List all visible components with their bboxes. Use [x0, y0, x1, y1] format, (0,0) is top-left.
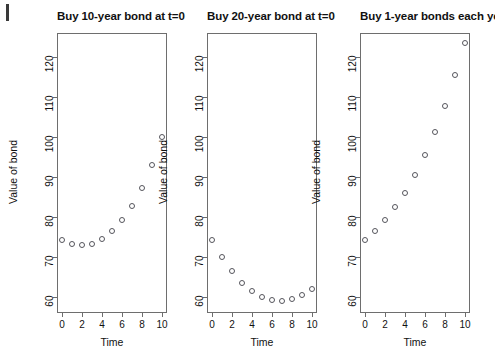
- data-point: [402, 190, 408, 196]
- panel-buy-1-year-bonds-each-year: Buy 1-year bonds each year Value of bond…: [0, 0, 495, 362]
- data-point: [372, 228, 378, 234]
- x-tick-label: 10: [459, 319, 470, 330]
- x-tick-label: 8: [442, 319, 448, 330]
- data-point: [422, 152, 428, 158]
- y-tick-label: 70: [347, 256, 358, 282]
- x-tick-mark: [425, 313, 426, 317]
- x-tick-mark: [445, 313, 446, 317]
- x-tick-label: 4: [402, 319, 408, 330]
- y-tick-label: 90: [347, 176, 358, 202]
- x-tick-mark: [385, 313, 386, 317]
- data-point: [412, 172, 418, 178]
- y-tick-label: 60: [347, 296, 358, 322]
- y-tick-label: 120: [347, 56, 358, 82]
- panel-title: Buy 1-year bonds each year: [360, 10, 470, 22]
- x-tick-label: 0: [362, 319, 368, 330]
- bond-value-figure: Buy 10-year bond at t=0 Value of bond Ti…: [0, 0, 495, 362]
- x-tick-label: 2: [382, 319, 388, 330]
- y-axis-title: Value of bond: [310, 102, 322, 242]
- x-tick-mark: [365, 313, 366, 317]
- y-tick-label: 110: [347, 96, 358, 122]
- x-tick-mark: [465, 313, 466, 317]
- x-tick-mark: [405, 313, 406, 317]
- data-point: [462, 40, 468, 46]
- data-point: [382, 217, 388, 223]
- y-tick-label: 80: [347, 216, 358, 242]
- y-tick-label: 100: [347, 136, 358, 162]
- x-tick-label: 6: [422, 319, 428, 330]
- x-axis-title: Time: [360, 336, 470, 348]
